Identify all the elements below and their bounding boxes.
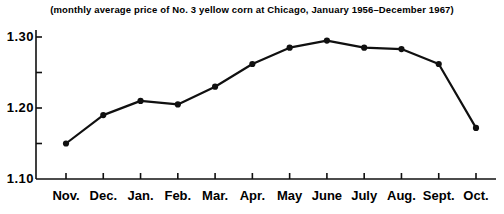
data-point-marker [63,140,69,146]
data-point-marker [287,45,293,51]
price-series-line [66,41,476,144]
chart-axes [36,30,496,179]
data-point-marker [398,46,404,52]
x-axis-tick-label: June [312,188,342,203]
y-axis-tick-label: 1.30 [0,29,34,44]
x-axis-tick-label: Dec. [90,188,117,203]
data-point-marker [436,61,442,67]
price-series-markers [63,37,479,146]
x-axis-tick-label: Sept. [423,188,455,203]
y-axis-tick-label: 1.20 [0,100,34,115]
x-axis-tick-label: Nov. [52,188,79,203]
line-chart-plot-area [0,0,504,214]
x-axis-tick-label: Mar. [202,188,228,203]
data-point-marker [175,101,181,107]
data-point-marker [212,84,218,90]
x-axis-tick-label: Jan. [128,188,154,203]
x-axis-tick-label: July [351,188,377,203]
x-axis-tick-label: Oct. [463,188,488,203]
data-point-marker [473,125,479,131]
data-point-marker [361,45,367,51]
x-axis-tick-label: Apr. [240,188,265,203]
data-point-marker [324,37,330,43]
data-point-marker [137,98,143,104]
x-axis-tick-label: May [277,188,302,203]
x-axis-tick-label: Feb. [164,188,191,203]
y-axis-tick-label: 1.10 [0,171,34,186]
chart-container: (monthly average price of No. 3 yellow c… [0,0,504,214]
data-point-marker [100,112,106,118]
x-axis-tick-label: Aug. [387,188,416,203]
data-point-marker [249,61,255,67]
chart-tick-marks [36,37,476,179]
